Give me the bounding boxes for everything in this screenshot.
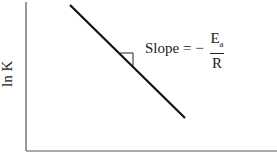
y-axis-label: ln K: [0, 67, 27, 87]
slope-fraction: Ea R: [210, 30, 224, 73]
slope-label: Slope = −: [145, 40, 204, 57]
data-line: [70, 5, 185, 118]
plot-area: [0, 0, 277, 165]
fraction-denominator: R: [210, 54, 224, 73]
fraction-numerator: Ea: [210, 30, 224, 54]
